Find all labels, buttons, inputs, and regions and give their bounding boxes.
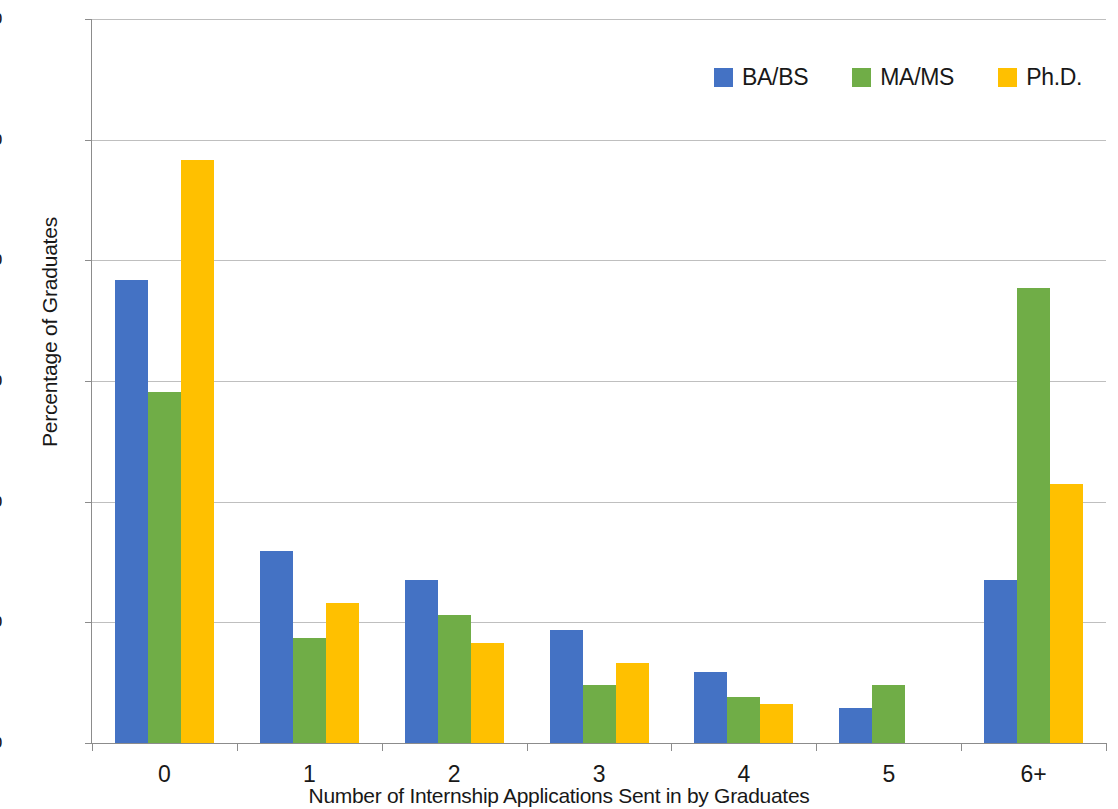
bar-PhD-1 [326, 603, 359, 743]
y-tick-label: 30% [0, 365, 2, 392]
y-tick-mark [85, 19, 92, 20]
x-tick-mark [816, 743, 817, 751]
x-tick-mark [961, 743, 962, 751]
gridline-60 [92, 19, 1106, 20]
y-tick-label: 20% [0, 486, 2, 513]
bar-MAMS-2 [438, 615, 471, 743]
y-tick-label: 60% [0, 3, 2, 30]
plot-area: 0%10%20%30%40%50%60% 0123456+ [92, 19, 1106, 743]
y-tick-mark [85, 140, 92, 141]
bar-PhD-0 [181, 160, 214, 743]
bar-MAMS-1 [293, 638, 326, 743]
legend-swatch-icon [998, 68, 1017, 87]
bar-PhD-4 [760, 704, 793, 743]
legend-label: MA/MS [880, 64, 954, 91]
x-tick-mark [237, 743, 238, 751]
x-tick-mark [1106, 743, 1107, 751]
bar-BABS-0 [115, 280, 148, 743]
y-tick-mark [85, 622, 92, 623]
legend-item-MAMS[interactable]: MA/MS [852, 64, 954, 91]
gridline-20 [92, 502, 1106, 503]
legend-item-PhD[interactable]: Ph.D. [998, 64, 1082, 91]
bar-MAMS-6plus [1017, 288, 1050, 743]
y-tick-mark [85, 743, 92, 744]
bar-BABS-3 [550, 630, 583, 743]
x-tick-mark [382, 743, 383, 751]
y-tick-mark [85, 381, 92, 382]
bar-BABS-5 [839, 708, 872, 743]
legend-item-BABS[interactable]: BA/BS [714, 64, 808, 91]
bar-PhD-6plus [1050, 484, 1083, 743]
gridline-30 [92, 381, 1106, 382]
y-tick-label: 40% [0, 244, 2, 271]
bar-chart: Percentage of Graduates 0%10%20%30%40%50… [0, 0, 1118, 809]
bar-PhD-3 [616, 663, 649, 743]
bar-BABS-6plus [984, 580, 1017, 743]
y-tick-label: 0% [0, 727, 2, 754]
y-tick-mark [85, 502, 92, 503]
x-axis-title: Number of Internship Applications Sent i… [0, 784, 1118, 808]
x-tick-mark [527, 743, 528, 751]
y-tick-label: 50% [0, 124, 2, 151]
legend: BA/BSMA/MSPh.D. [714, 64, 1082, 91]
x-tick-mark [92, 743, 93, 751]
bar-BABS-1 [260, 551, 293, 743]
legend-label: BA/BS [742, 64, 808, 91]
gridline-50 [92, 140, 1106, 141]
bar-MAMS-0 [148, 392, 181, 743]
gridline-40 [92, 260, 1106, 261]
bar-MAMS-3 [583, 685, 616, 743]
bar-MAMS-5 [872, 685, 905, 743]
x-tick-mark [671, 743, 672, 751]
y-axis-title: Percentage of Graduates [38, 182, 62, 482]
gridline-10 [92, 622, 1106, 623]
legend-label: Ph.D. [1026, 64, 1082, 91]
y-tick-mark [85, 260, 92, 261]
bar-PhD-2 [471, 643, 504, 743]
legend-swatch-icon [714, 68, 733, 87]
gridline-0 [92, 743, 1106, 744]
y-tick-label: 10% [0, 606, 2, 633]
bar-BABS-2 [405, 580, 438, 743]
bar-BABS-4 [694, 672, 727, 743]
bar-MAMS-4 [727, 697, 760, 743]
legend-swatch-icon [852, 68, 871, 87]
